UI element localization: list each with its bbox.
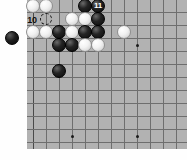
grid-line-vertical <box>137 0 138 149</box>
grid-line-horizontal <box>27 90 187 91</box>
go-stone-black[interactable] <box>52 64 66 78</box>
star-point <box>136 135 139 138</box>
go-stone-white[interactable] <box>117 25 131 39</box>
grid-line-vertical <box>33 0 34 149</box>
grid-line-horizontal <box>27 51 187 52</box>
captured-stone-black <box>5 31 19 45</box>
grid-line-horizontal <box>27 142 187 143</box>
grid-line-horizontal <box>27 103 187 104</box>
go-stone-white[interactable] <box>78 12 92 26</box>
grid-line-horizontal <box>27 129 187 130</box>
star-point <box>71 135 74 138</box>
grid-line-horizontal <box>27 77 187 78</box>
grid-line-horizontal <box>27 25 187 26</box>
go-stone-white[interactable] <box>26 25 40 39</box>
go-stone-black[interactable] <box>52 25 66 39</box>
grid-line-vertical <box>124 0 125 149</box>
grid-line-vertical <box>163 0 164 149</box>
go-stone-white[interactable] <box>65 12 79 26</box>
grid-line-horizontal <box>27 116 187 117</box>
grid-line-vertical <box>150 0 151 149</box>
ghost-stone-marker <box>40 13 52 25</box>
grid-line-horizontal <box>27 38 187 39</box>
grid-line-horizontal <box>27 64 187 65</box>
grid-line-vertical <box>111 0 112 149</box>
go-stone-white[interactable] <box>78 38 92 52</box>
star-point <box>136 44 139 47</box>
go-stone-black[interactable] <box>65 38 79 52</box>
go-stone-white[interactable] <box>39 25 53 39</box>
grid-line-horizontal <box>27 12 187 13</box>
go-stone-black[interactable] <box>91 25 105 39</box>
grid-line-vertical <box>176 0 177 149</box>
go-stone-white[interactable] <box>65 25 79 39</box>
go-stone-black[interactable] <box>91 12 105 26</box>
go-stone-black[interactable] <box>52 38 66 52</box>
go-stone-black[interactable] <box>78 25 92 39</box>
go-diagram-root: 1110 <box>0 0 187 160</box>
go-stone-white[interactable] <box>91 38 105 52</box>
